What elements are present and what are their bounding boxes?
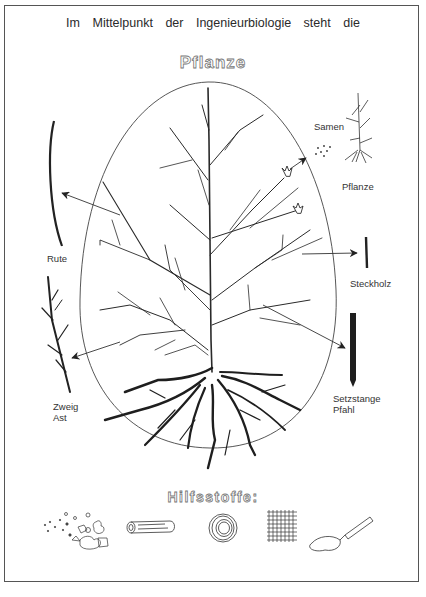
mesh-grid-icon: [267, 510, 297, 542]
stones-gravel-icon: [44, 513, 108, 550]
tube-glue-icon: [310, 517, 373, 551]
arrow-samen: [290, 158, 306, 169]
label-rute: Rute: [47, 253, 67, 264]
plant-diagram: [0, 0, 426, 597]
seedling-icon: [345, 93, 372, 163]
arrow-zweig: [72, 342, 120, 358]
setzstange-icon: [350, 313, 356, 387]
label-zweig: Zweig: [53, 401, 78, 412]
rute-icon: [50, 121, 62, 246]
arrow-steckholz: [302, 253, 357, 254]
arrow-setzstange: [263, 305, 345, 348]
wire-coil-icon: [209, 514, 237, 542]
label-setzstange: Setzstange: [333, 393, 381, 404]
label-steckholz: Steckholz: [350, 278, 391, 289]
zweig-icon: [42, 277, 70, 392]
label-pfahl: Pfahl: [333, 404, 355, 415]
ellipse-outline: [80, 82, 336, 448]
roots-icon: [105, 368, 300, 468]
auxiliary-title: Hilfsstoffe:: [0, 489, 426, 505]
label-samen: Samen: [314, 121, 344, 132]
log-bundle-icon: [127, 521, 175, 533]
label-ast: Ast: [53, 412, 67, 423]
label-pflanze: Pflanze: [342, 181, 374, 192]
seeds-icon: [315, 145, 331, 157]
steckholz-icon: [366, 237, 367, 268]
